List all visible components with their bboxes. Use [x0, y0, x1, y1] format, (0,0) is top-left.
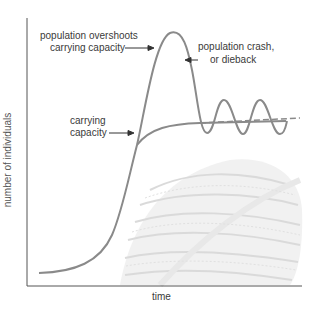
- overshoot-arrowhead: [148, 46, 154, 51]
- fish-illustration: [120, 159, 302, 285]
- carrying-capacity-curve: [137, 121, 286, 145]
- crash-arrowhead: [185, 58, 191, 63]
- overshoot-label-line2: carrying capacity: [50, 42, 125, 54]
- overshoot-label-line1: population overshoots: [40, 30, 138, 42]
- crash-label-line2: or dieback: [210, 54, 256, 66]
- crash-label-line1: population crash,: [198, 41, 274, 53]
- capacity-arrowhead: [128, 131, 134, 136]
- capacity-label-line2: capacity: [70, 127, 107, 139]
- capacity-label-line1: carrying: [70, 115, 106, 127]
- y-axis-label: number of individuals: [2, 113, 13, 208]
- x-axis-label: time: [152, 291, 171, 303]
